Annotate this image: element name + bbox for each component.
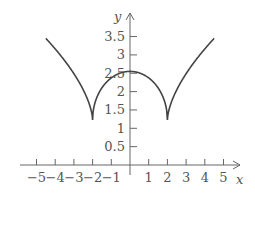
- y-tick-label: 1: [117, 121, 125, 136]
- x-tick-label: −3: [64, 170, 83, 185]
- y-tick-label: 3: [117, 47, 125, 62]
- x-tick-label: 1: [145, 170, 153, 185]
- y-tick-label: 0.5: [104, 139, 125, 154]
- chart: −5−4−3−2−1123450.511.522.533.5 x y: [0, 0, 255, 231]
- x-tick-label: −5: [27, 170, 46, 185]
- x-tick-label: 2: [163, 170, 171, 185]
- x-tick-label: −4: [46, 170, 65, 185]
- x-tick-label: 3: [182, 170, 190, 185]
- axes: [20, 13, 240, 175]
- x-tick-label: 5: [219, 170, 227, 185]
- x-axis-arrow: [233, 165, 240, 169]
- tick-labels: −5−4−3−2−1123450.511.522.533.5: [27, 29, 228, 185]
- x-tick-label: −1: [102, 170, 121, 185]
- y-axis-arrow: [130, 13, 134, 20]
- y-axis-label: y: [113, 9, 122, 24]
- x-tick-label: 4: [201, 170, 209, 185]
- x-axis-label: x: [236, 172, 244, 187]
- x-tick-label: −2: [83, 170, 102, 185]
- y-tick-label: 1.5: [104, 102, 125, 117]
- y-axis-arrow: [126, 13, 130, 20]
- y-tick-label: 2: [117, 84, 125, 99]
- x-axis-arrow: [233, 161, 240, 165]
- y-tick-label: 3.5: [104, 29, 125, 44]
